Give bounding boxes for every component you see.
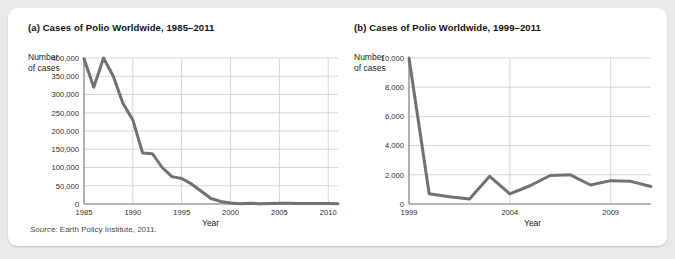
x-axis-tick-label: 1985: [76, 208, 93, 217]
x-axis-tick-label: 2005: [271, 208, 288, 217]
panel-a-x-axis-title: Year: [202, 218, 219, 228]
y-axis-tick-label: 400,000: [52, 54, 79, 63]
chart-panel-b: (b) Cases of Polio Worldwide, 1999–2011 …: [338, 8, 667, 246]
y-axis-tick-label: 6,000: [385, 112, 404, 121]
source-text: Earth Policy Institute, 2011.: [58, 225, 157, 234]
panel-a-plot-area: 050,000100,000150,000200,000250,000300,0…: [8, 8, 348, 233]
source-note: Source: Earth Policy Institute, 2011.: [30, 225, 157, 234]
y-axis-tick-label: 250,000: [52, 109, 79, 118]
source-label: Source:: [30, 225, 58, 234]
x-axis-tick-label: 1999: [401, 208, 418, 217]
y-axis-tick-label: 4,000: [385, 141, 404, 150]
panel-a-svg: 050,000100,000150,000200,000250,000300,0…: [8, 8, 348, 233]
x-axis-tick-label: 2004: [501, 208, 518, 217]
y-axis-tick-label: 150,000: [52, 145, 79, 154]
y-axis-tick-label: 2,000: [385, 171, 404, 180]
y-axis-tick-label: 200,000: [52, 127, 79, 136]
y-axis-tick-label: 300,000: [52, 90, 79, 99]
panel-b-plot-area: 02,0004,0006,0008,00010,000199920042009: [338, 8, 667, 233]
x-axis-tick-label: 2009: [602, 208, 619, 217]
x-axis-tick-label: 2010: [320, 208, 337, 217]
chart-panel-a: (a) Cases of Polio Worldwide, 1985–2011 …: [8, 8, 348, 246]
panel-b-svg: 02,0004,0006,0008,00010,000199920042009: [338, 8, 667, 233]
x-axis-tick-label: 1995: [173, 208, 190, 217]
x-axis-tick-label: 1990: [124, 208, 141, 217]
y-axis-tick-label: 100,000: [52, 163, 79, 172]
y-axis-tick-label: 8,000: [385, 83, 404, 92]
figure-card: (a) Cases of Polio Worldwide, 1985–2011 …: [8, 8, 667, 246]
panel-b-x-axis-title: Year: [524, 218, 541, 228]
y-axis-tick-label: 350,000: [52, 72, 79, 81]
x-axis-tick-label: 2000: [222, 208, 239, 217]
y-axis-tick-label: 10,000: [381, 54, 404, 63]
data-series-line: [409, 58, 651, 199]
y-axis-tick-label: 50,000: [56, 182, 79, 191]
